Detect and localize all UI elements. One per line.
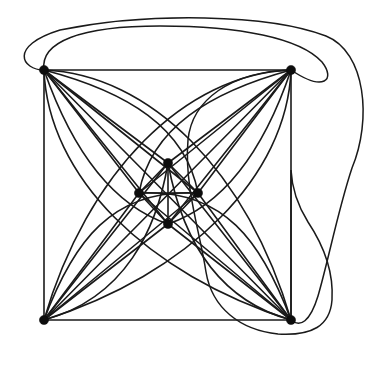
vertex-inner-bottom: [163, 219, 172, 228]
vertex-inner-left: [134, 188, 143, 197]
vertex-outer-bottom-right: [286, 315, 295, 324]
graph-figure: [0, 0, 371, 366]
vertex-inner-right: [193, 188, 202, 197]
vertex-outer-top-right: [286, 65, 295, 74]
graph-canvas: [0, 0, 371, 366]
vertex-outer-bottom-left: [39, 315, 48, 324]
vertex-outer-top-left: [39, 65, 48, 74]
vertex-inner-top: [163, 158, 172, 167]
